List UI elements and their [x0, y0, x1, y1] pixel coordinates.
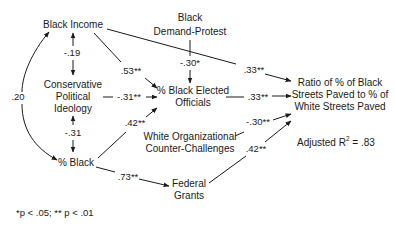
node-black-demand-protest-line1: Black [178, 12, 202, 24]
node-conservative-ideology-line3: Ideology [54, 103, 92, 115]
coef-ideology-elected: -.31** [117, 91, 141, 103]
path-diagram: Black Income Black Demand-Protest Conser… [0, 0, 395, 229]
node-conservative-ideology-line2: Political [56, 91, 90, 103]
node-black-demand-protest-line2: Demand-Protest [154, 26, 227, 38]
node-federal-grants-line2: Grants [174, 190, 204, 202]
fit-label: Adjusted R [297, 137, 346, 148]
node-elected-officials-line1: % Black Elected [157, 85, 229, 97]
node-black-income: Black Income [43, 19, 103, 31]
coef-income-elected: .53** [121, 65, 142, 77]
coef-elected-outcome: .33** [248, 91, 269, 103]
significance-footnote: *p < .05; ** p < .01 [16, 207, 94, 218]
node-outcome-line1: Ratio of % of Black [298, 77, 382, 89]
node-conservative-ideology-line1: Conservative [44, 79, 102, 91]
coef-grants-outcome: .42** [246, 143, 267, 155]
coef-pctblack-elected: .42** [125, 117, 146, 129]
node-outcome-line2: Streets Paved to % of [292, 89, 389, 101]
coef-protest-elected: -.30* [180, 57, 200, 69]
coef-income-ideology: -.19 [64, 47, 80, 59]
node-pct-black: % Black [58, 157, 94, 169]
fit-value: = .83 [350, 137, 375, 148]
adjusted-r-squared: Adjusted R2 = .83 [297, 135, 375, 148]
node-outcome-line3: White Streets Paved [294, 101, 385, 113]
node-white-org-line2: Counter-Challenges [146, 143, 235, 155]
coef-income-outcome: .33** [244, 64, 265, 76]
node-elected-officials-line2: Officials [175, 97, 210, 109]
coef-white-outcome: -.30** [246, 116, 270, 128]
node-federal-grants-line1: Federal [172, 178, 206, 190]
coef-ideology-pctblack: -.31 [65, 127, 81, 139]
coef-pctblack-grants: .73** [118, 171, 139, 183]
node-white-org-line1: White Organizational [144, 131, 237, 143]
coef-income-pctblack: .20 [11, 91, 24, 103]
